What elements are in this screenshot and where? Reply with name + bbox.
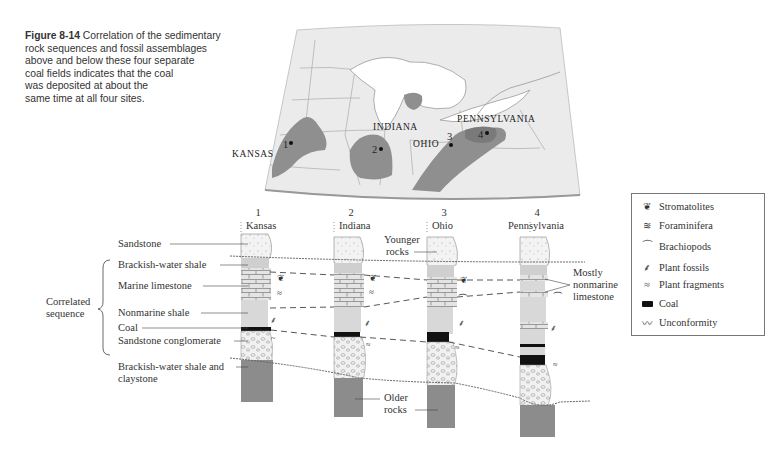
annotations: Younger rocks Older rocks Mostly nonmari… bbox=[355, 234, 618, 415]
column-pennsylvania bbox=[520, 237, 555, 437]
legend-label: Plant fragments bbox=[659, 279, 724, 290]
column-number-1: 1 bbox=[255, 207, 260, 218]
plant-fragment-icon: ≈ bbox=[553, 360, 558, 369]
label-sequence: sequence bbox=[46, 308, 85, 319]
coal-seam-indiana bbox=[334, 332, 360, 337]
label-older: Older bbox=[384, 392, 408, 403]
site-dot-1 bbox=[289, 141, 293, 145]
stromatolite-icon: ❦ bbox=[369, 273, 377, 283]
map-label-indiana: INDIANA bbox=[373, 122, 418, 132]
site-number-2: 2 bbox=[372, 144, 377, 155]
label-correlated: Correlated bbox=[46, 296, 91, 307]
site-number-1: 1 bbox=[283, 139, 288, 150]
legend-item-plant-fragments: ≈ Plant fragments bbox=[638, 279, 724, 290]
plant-fossil-icon: ⸙ bbox=[638, 260, 656, 274]
legend-item-stromatolites: ❦ Stromatolites bbox=[638, 200, 714, 212]
coal-seam-pennsylvania bbox=[520, 355, 545, 365]
column-kansas bbox=[241, 234, 273, 402]
site-dot-4 bbox=[485, 131, 489, 135]
plant-fossil-icon: ⸙ bbox=[458, 318, 465, 328]
label-sandstone: Sandstone bbox=[118, 238, 162, 249]
column-name-kansas: Kansas bbox=[246, 220, 276, 231]
legend-item-foraminifera: ≋ Foraminifera bbox=[638, 219, 713, 231]
label-nonmarine-shale: Nonmarine shale bbox=[118, 307, 190, 318]
brachiopod-icon: ⏜ bbox=[638, 240, 656, 252]
brachiopod-icon: ⏜ bbox=[553, 291, 562, 302]
label-limestone: limestone bbox=[573, 291, 614, 302]
column-name-pennsylvania: Pennsylvania bbox=[508, 220, 564, 231]
label-marine-limestone: Marine limestone bbox=[118, 280, 192, 291]
correlation-lines bbox=[270, 272, 520, 357]
stromatolite-icon: ❦ bbox=[638, 200, 656, 212]
column-indiana bbox=[334, 237, 366, 417]
plant-fossil-icon: ⸙ bbox=[550, 323, 557, 333]
legend-label: Foraminifera bbox=[659, 220, 713, 231]
plant-fragment-icon: ≈ bbox=[638, 279, 656, 290]
column-headers: 1 Kansas 2 Indiana 3 Ohio 4 Pennsylvania bbox=[241, 207, 564, 233]
column-number-3: 3 bbox=[441, 207, 446, 218]
regional-map: KANSAS INDIANA OHIO PENNSYLVANIA 1 2 3 4 bbox=[232, 24, 580, 199]
plant-fossil-icon: ⸙ bbox=[364, 318, 371, 328]
left-layer-labels: Sandstone Brackish-water shale Marine li… bbox=[46, 238, 248, 384]
label-younger: Younger bbox=[384, 234, 420, 245]
coal-seam-ohio bbox=[427, 332, 449, 342]
fossil-symbols: ❦ ≈ ⸙ ~ ❦ ≈ ⸙ ≈ ❦ ⏜ ⸙ ≈ ⏜ ⸙ ≈ bbox=[270, 273, 562, 369]
coal-seam-kansas bbox=[241, 327, 271, 331]
foraminifera-icon: ≋ bbox=[638, 219, 656, 231]
legend-item-plant-fossils: ⸙ Plant fossils bbox=[638, 260, 709, 274]
column-name-ohio: Ohio bbox=[432, 220, 453, 231]
brachiopod-icon: ⏜ bbox=[458, 293, 467, 304]
label-nonmarine: nonmarine bbox=[573, 279, 618, 290]
column-number-4: 4 bbox=[534, 207, 540, 218]
map-label-kansas: KANSAS bbox=[232, 149, 274, 159]
plant-fossil-icon: ⸙ bbox=[270, 315, 277, 325]
label-brackish-shale: Brackish-water shale bbox=[118, 259, 207, 270]
legend-item-brachiopods: ⏜ Brachiopods bbox=[638, 240, 711, 252]
stromatolite-icon: ❦ bbox=[277, 273, 285, 283]
site-number-3: 3 bbox=[447, 131, 452, 142]
unconformity-icon: 〰 bbox=[638, 315, 656, 330]
legend-label: Coal bbox=[659, 298, 678, 309]
stromatolite-icon: ❦ bbox=[460, 275, 468, 285]
site-dot-2 bbox=[379, 147, 383, 151]
plant-fragment-icon: ~ bbox=[271, 334, 276, 343]
column-ohio bbox=[427, 237, 457, 428]
column-number-2: 2 bbox=[348, 207, 353, 218]
legend-label: Brachiopods bbox=[659, 241, 711, 252]
column-name-indiana: Indiana bbox=[339, 220, 371, 231]
label-sandstone-conglomerate: Sandstone conglomerate bbox=[118, 335, 221, 346]
legend-label: Plant fossils bbox=[659, 262, 709, 273]
site-number-4: 4 bbox=[478, 129, 484, 140]
correlated-brace bbox=[98, 260, 110, 355]
label-mostly: Mostly bbox=[573, 267, 604, 278]
label-younger-rocks: rocks bbox=[386, 246, 409, 257]
label-brackish-claystone: Brackish-water shale and bbox=[118, 361, 225, 372]
label-claystone: claystone bbox=[118, 373, 158, 384]
legend-item-coal: Coal bbox=[638, 298, 678, 309]
coal-icon bbox=[638, 298, 656, 309]
map-label-pennsylvania: PENNSYLVANIA bbox=[457, 114, 535, 124]
site-dot-3 bbox=[449, 143, 453, 147]
foraminifera-icon: ≈ bbox=[369, 287, 374, 297]
label-coal: Coal bbox=[118, 322, 138, 333]
plant-fragment-icon: ≈ bbox=[366, 340, 371, 349]
map-label-ohio: OHIO bbox=[413, 139, 439, 149]
plant-fragment-icon: ≈ bbox=[455, 343, 460, 352]
legend: ❦ Stromatolites ≋ Foraminifera ⏜ Brachio… bbox=[631, 193, 765, 336]
foraminifera-icon: ≈ bbox=[277, 288, 282, 298]
label-older-rocks: rocks bbox=[384, 404, 407, 415]
legend-label: Unconformity bbox=[659, 317, 717, 328]
legend-item-unconformity: 〰 Unconformity bbox=[638, 315, 717, 330]
legend-label: Stromatolites bbox=[659, 201, 714, 212]
